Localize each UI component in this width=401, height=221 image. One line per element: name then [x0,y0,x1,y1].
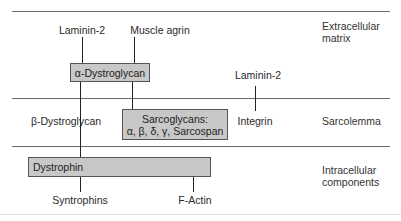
alpha-dystroglycan-box: α-Dystroglycan [70,63,150,82]
bottom-divider [0,214,401,215]
region-line: Sarcolemma [322,115,381,127]
region-intracellular-components: Intracellular components [322,164,379,188]
dystrophin-syntrophins-connector [80,177,81,192]
laminin-integrin-connector [255,86,256,111]
region-line: Extracellular [322,20,380,32]
dystrophin-factin-connector [193,177,194,192]
region-line: matrix [322,32,380,44]
sarcoglycans-title: Sarcoglycans: [142,113,208,125]
region-sarcolemma: Sarcolemma [322,115,381,127]
syntrophins-label: Syntrophins [52,194,107,206]
integrin-label: Integrin [237,115,272,127]
muscle-agrin-connector [134,37,135,63]
muscle-agrin-label: Muscle agrin [130,24,190,36]
laminin-2-right-label: Laminin-2 [235,69,281,81]
dystroglycan-sarcoglycan-connector [132,82,133,109]
region-line: components [322,176,379,188]
laminin-left-connector [82,37,83,63]
extracellular-sarcolemma-divider [12,98,390,99]
region-line: Intracellular [322,164,379,176]
dystrophin-label: Dystrophin [33,161,83,173]
f-actin-label: F-Actin [178,194,211,206]
sarcolemma-intracellular-divider [12,146,390,147]
region-extracellular-matrix: Extracellular matrix [322,20,380,44]
laminin-2-left-label: Laminin-2 [59,24,105,36]
sarcoglycans-list: α, β, δ, γ, Sarcospan [127,125,224,137]
top-divider [12,11,390,12]
sarcoglycans-box: Sarcoglycans: α, β, δ, γ, Sarcospan [122,109,228,140]
beta-dystroglycan-label: β-Dystroglycan [31,115,101,127]
dystrophin-box: Dystrophin [28,157,211,177]
alpha-dystroglycan-label: α-Dystroglycan [75,67,145,79]
